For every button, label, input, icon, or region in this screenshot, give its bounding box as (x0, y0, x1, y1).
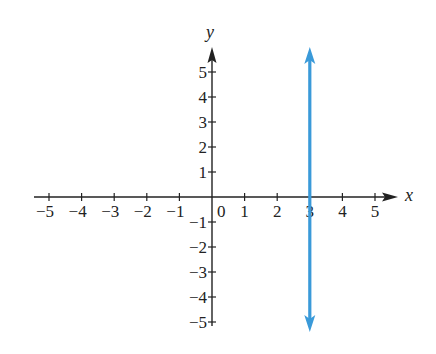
y-tick-label: −1 (189, 213, 207, 232)
x-tick-label: 1 (240, 202, 249, 221)
y-tick-label: 5 (199, 63, 208, 82)
series-layer (304, 47, 315, 332)
y-tick-label: 3 (199, 113, 208, 132)
x-tick-label: −2 (134, 202, 152, 221)
x-tick-label: 2 (273, 202, 282, 221)
x-tick-label: 4 (338, 202, 347, 221)
y-tick-label: 1 (199, 163, 208, 182)
y-tick-label: −4 (189, 288, 208, 307)
x-tick-label: 5 (371, 202, 380, 221)
y-tick-label: −5 (189, 313, 207, 332)
x-tick-label: −1 (166, 202, 184, 221)
y-tick-label: −3 (189, 263, 207, 282)
x-tick-label: −5 (36, 202, 54, 221)
y-tick-label: 4 (199, 88, 208, 107)
y-tick-label: 2 (199, 138, 208, 157)
x-tick-label: 0 (217, 202, 226, 221)
coordinate-plane: xy−5−4−3−2−1012345−5−4−3−2−112345 (0, 0, 436, 354)
axes: xy−5−4−3−2−1012345−5−4−3−2−112345 (34, 22, 413, 332)
x-tick-label: −4 (69, 202, 88, 221)
y-axis-label: y (204, 22, 214, 42)
y-tick-label: −2 (189, 238, 207, 257)
x-tick-label: −3 (101, 202, 119, 221)
x-axis-label: x (404, 185, 413, 205)
